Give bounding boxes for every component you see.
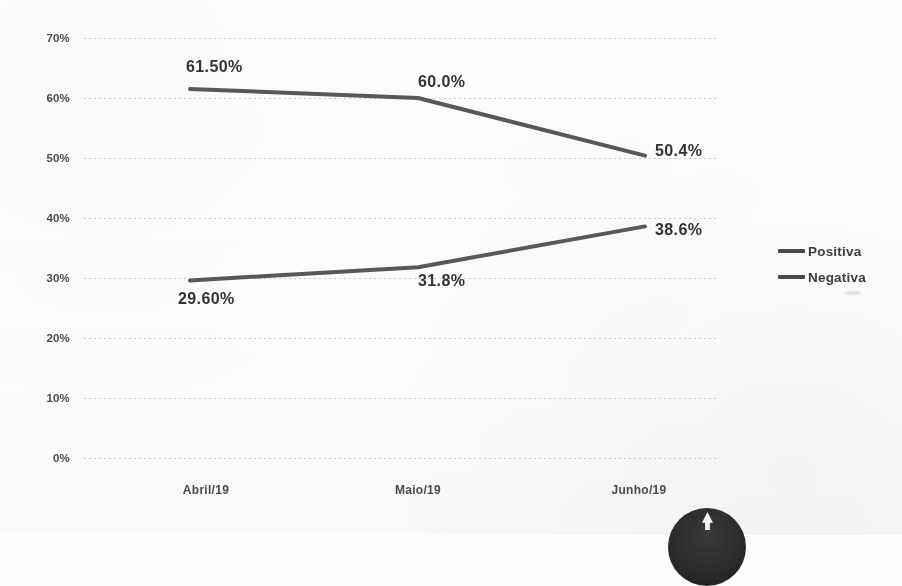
data-label-positiva-abril: 61.50% xyxy=(186,58,243,76)
legend-swatch-positiva xyxy=(778,249,805,253)
chart-legend: Positiva Negativa xyxy=(778,238,866,290)
x-tick-abril: Abril/19 xyxy=(183,483,229,497)
data-label-positiva-maio: 60.0% xyxy=(418,73,465,91)
x-tick-maio: Maio/19 xyxy=(395,483,441,497)
legend-swatch-negativa xyxy=(778,275,805,279)
legend-label-negativa: Negativa xyxy=(808,270,866,285)
legend-label-positiva: Positiva xyxy=(808,244,861,259)
series-positiva-line xyxy=(190,89,645,156)
data-label-negativa-abril: 29.60% xyxy=(178,290,235,308)
paper-smudge xyxy=(846,292,860,294)
data-label-negativa-maio: 31.8% xyxy=(418,272,465,290)
data-label-negativa-junho: 38.6% xyxy=(655,221,702,239)
legend-item-negativa[interactable]: Negativa xyxy=(778,264,866,290)
data-label-positiva-junho: 50.4% xyxy=(655,142,702,160)
legend-item-positiva[interactable]: Positiva xyxy=(778,238,866,264)
x-tick-junho: Junho/19 xyxy=(611,483,666,497)
